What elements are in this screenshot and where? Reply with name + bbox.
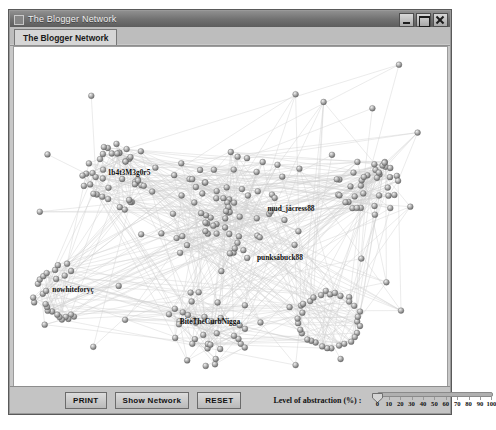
graph-node[interactable] — [228, 149, 234, 155]
graph-node[interactable] — [159, 231, 165, 237]
graph-node[interactable] — [203, 363, 209, 369]
maximize-button[interactable] — [416, 13, 431, 27]
graph-node[interactable] — [343, 199, 349, 205]
graph-node[interactable] — [384, 279, 390, 285]
graph-node[interactable] — [237, 214, 243, 220]
graph-node[interactable] — [254, 169, 260, 175]
graph-node[interactable] — [189, 341, 195, 347]
graph-node[interactable] — [236, 234, 242, 240]
graph-node[interactable] — [189, 176, 195, 182]
graph-node[interactable] — [116, 283, 122, 289]
graph-node[interactable] — [348, 339, 354, 345]
graph-node[interactable] — [124, 146, 130, 152]
graph-node[interactable] — [149, 189, 155, 195]
graph-node[interactable] — [386, 193, 392, 199]
graph-node[interactable] — [272, 195, 278, 201]
graph-node[interactable] — [358, 256, 364, 262]
graph-node[interactable] — [334, 176, 340, 182]
graph-node[interactable] — [45, 152, 51, 158]
graph-node[interactable] — [202, 180, 208, 186]
graph-node[interactable] — [398, 308, 404, 314]
graph-node[interactable] — [372, 212, 378, 218]
graph-node[interactable] — [235, 154, 241, 160]
network-graph-canvas[interactable]: 1b4t3M3g0r5mud_jácress88punksábuck88nowh… — [13, 46, 448, 387]
graph-node[interactable] — [385, 185, 391, 191]
graph-node[interactable] — [126, 197, 132, 203]
graph-node[interactable] — [43, 288, 49, 294]
graph-node[interactable] — [214, 330, 220, 336]
graph-node[interactable] — [212, 361, 218, 367]
graph-node[interactable] — [282, 217, 288, 223]
graph-node[interactable] — [396, 62, 402, 68]
graph-node[interactable] — [341, 341, 347, 347]
graph-node[interactable] — [360, 191, 366, 197]
graph-node[interactable] — [387, 174, 393, 180]
graph-node[interactable] — [197, 167, 203, 173]
graph-node[interactable] — [184, 358, 190, 364]
graph-node[interactable] — [114, 151, 120, 157]
graph-node[interactable] — [178, 160, 184, 166]
graph-node[interactable] — [170, 211, 176, 217]
reset-button[interactable]: RESET — [197, 392, 241, 409]
graph-node[interactable] — [321, 99, 327, 105]
graph-node[interactable] — [196, 289, 202, 295]
graph-node[interactable] — [106, 185, 112, 191]
graph-node[interactable] — [55, 262, 61, 268]
graph-node[interactable] — [99, 194, 105, 200]
graph-node[interactable] — [300, 310, 306, 316]
graph-node[interactable] — [319, 344, 325, 350]
graph-node[interactable] — [91, 191, 97, 197]
graph-node[interactable] — [215, 300, 221, 306]
graph-node[interactable] — [62, 273, 68, 279]
graph-node[interactable] — [138, 148, 144, 154]
graph-node[interactable] — [297, 327, 303, 333]
graph-node[interactable] — [191, 200, 197, 206]
graph-node[interactable] — [213, 195, 219, 201]
graph-node[interactable] — [231, 200, 237, 206]
graph-node[interactable] — [101, 144, 107, 150]
graph-node[interactable] — [153, 165, 159, 171]
graph-node[interactable] — [174, 235, 180, 241]
graph-node[interactable] — [374, 175, 380, 181]
graph-node[interactable] — [81, 183, 87, 189]
close-button[interactable] — [433, 13, 448, 27]
graph-node[interactable] — [221, 195, 227, 201]
graph-node[interactable] — [244, 255, 250, 261]
graph-node[interactable] — [224, 185, 230, 191]
graph-node[interactable] — [297, 166, 303, 172]
graph-node[interactable] — [88, 93, 94, 99]
graph-node[interactable] — [338, 356, 344, 362]
graph-node[interactable] — [357, 323, 363, 329]
graph-node[interactable] — [114, 141, 120, 147]
graph-node[interactable] — [93, 174, 99, 180]
graph-node[interactable] — [241, 247, 247, 253]
graph-node[interactable] — [407, 204, 413, 210]
graph-node[interactable] — [90, 344, 96, 350]
graph-node[interactable] — [372, 161, 378, 167]
graph-node[interactable] — [68, 268, 74, 274]
graph-node[interactable] — [254, 215, 260, 221]
graph-node[interactable] — [395, 178, 401, 184]
graph-node[interactable] — [358, 183, 364, 189]
graph-node[interactable] — [30, 295, 36, 301]
graph-node[interactable] — [357, 309, 363, 315]
graph-node[interactable] — [37, 209, 43, 215]
graph-node[interactable] — [346, 299, 352, 305]
graph-node[interactable] — [351, 170, 357, 176]
graph-node[interactable] — [109, 151, 115, 157]
graph-node[interactable] — [219, 268, 225, 274]
graph-node[interactable] — [193, 184, 199, 190]
graph-node[interactable] — [42, 322, 48, 328]
graph-node[interactable] — [387, 205, 393, 211]
graph-node[interactable] — [217, 346, 223, 352]
graph-node[interactable] — [179, 233, 185, 239]
graph-node[interactable] — [370, 105, 376, 111]
graph-node[interactable] — [208, 342, 214, 348]
graph-node[interactable] — [213, 356, 219, 362]
graph-node[interactable] — [231, 333, 237, 339]
graph-node[interactable] — [86, 161, 92, 167]
graph-node[interactable] — [295, 316, 301, 322]
graph-node[interactable] — [203, 228, 209, 234]
graph-node[interactable] — [80, 173, 86, 179]
graph-node[interactable] — [172, 306, 178, 312]
